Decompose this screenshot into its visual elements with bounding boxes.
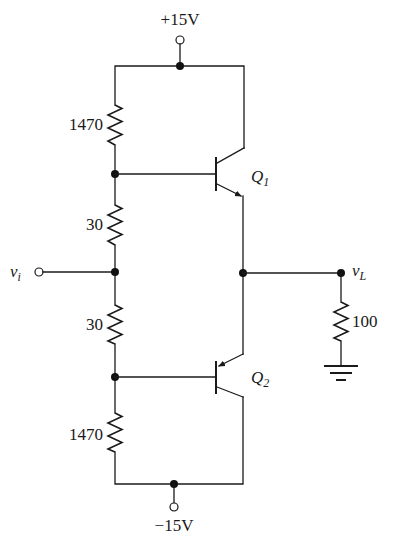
resistor-load: [334, 302, 348, 341]
resistor-r3: [108, 305, 122, 344]
circuit-diagram: +15V 1470 Q1 30 vi vL 100: [0, 0, 405, 560]
negative-supply-label: −15V: [155, 516, 195, 535]
transistor-q2: [216, 354, 243, 397]
resistor-r2: [108, 205, 122, 245]
resistor-r4-value: 1470: [69, 425, 103, 444]
resistor-r4: [108, 413, 122, 452]
input-node: [111, 268, 119, 276]
q2-label: Q2: [251, 368, 269, 390]
resistor-r1-value: 1470: [69, 115, 103, 134]
top-junction-node: [176, 62, 184, 70]
bottom-rail: [115, 397, 243, 484]
positive-supply-terminal: [176, 36, 184, 44]
transistor-q1: [216, 148, 244, 196]
top-rail: [115, 66, 244, 148]
q1-label: Q1: [251, 167, 269, 189]
positive-supply-label: +15V: [161, 10, 201, 29]
input-label: vi: [10, 262, 21, 284]
negative-supply-terminal: [170, 503, 178, 511]
resistor-r2-value: 30: [86, 215, 103, 234]
resistor-r1: [108, 105, 122, 145]
resistor-load-value: 100: [352, 312, 378, 331]
resistor-r3-value: 30: [86, 315, 103, 334]
input-terminal: [35, 268, 43, 276]
ground-icon: [325, 366, 357, 380]
output-label: vL: [352, 261, 367, 283]
